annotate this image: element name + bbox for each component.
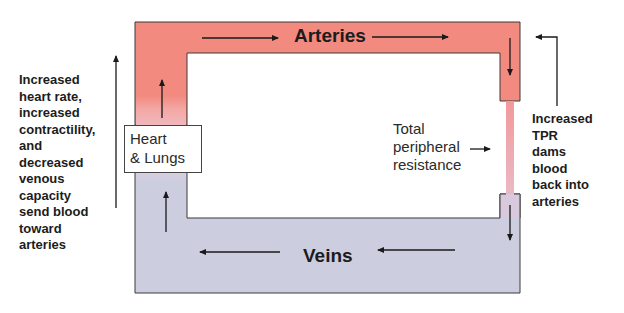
annotation-line: TPR	[532, 128, 593, 145]
right-annotation: Increased TPR dams blood back into arter…	[532, 111, 593, 210]
annotation-line: and	[19, 138, 95, 155]
annotation-line: arteries	[19, 237, 95, 254]
tpr-label-line: Total	[393, 120, 461, 138]
annotation-line: increased	[19, 105, 95, 122]
annotation-line: blood	[532, 161, 593, 178]
veins-vessel	[135, 172, 520, 293]
left-annotation: Increased heart rate, increased contract…	[19, 72, 95, 254]
arrow-left-bent-icon	[536, 37, 557, 106]
heart-lungs-line: Heart	[130, 129, 196, 148]
annotation-line: arteries	[532, 194, 593, 211]
heart-lungs-line: & Lungs	[130, 148, 196, 167]
heart-lungs-box: Heart & Lungs	[124, 125, 202, 173]
annotation-line: Increased	[532, 111, 593, 128]
tpr-label-line: peripheral	[393, 138, 461, 156]
annotation-line: capacity	[19, 188, 95, 205]
tpr-label: Total peripheral resistance	[393, 120, 461, 174]
annotation-line: toward	[19, 221, 95, 238]
annotation-line: back into	[532, 177, 593, 194]
annotation-line: dams	[532, 144, 593, 161]
tpr-label-line: resistance	[393, 156, 461, 174]
annotation-line: heart rate,	[19, 89, 95, 106]
annotation-line: decreased	[19, 155, 95, 172]
annotation-line: send blood	[19, 204, 95, 221]
annotation-line: Increased	[19, 72, 95, 89]
annotation-line: venous	[19, 171, 95, 188]
arteries-label: Arteries	[294, 25, 366, 47]
annotation-line: contractility,	[19, 122, 95, 139]
veins-label: Veins	[303, 245, 353, 267]
tpr-resistance-segment	[506, 101, 514, 195]
